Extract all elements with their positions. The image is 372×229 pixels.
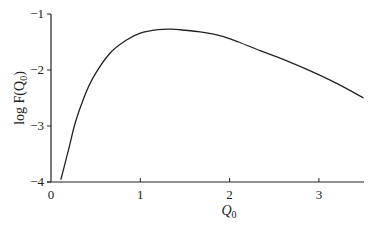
y-ticks: −1−2−3−4 [30,6,51,189]
x-tick-label: 1 [137,187,144,202]
x-tick-label: 2 [226,187,233,202]
y-tick-label: −3 [30,118,44,133]
y-tick-label: −2 [30,62,44,77]
data-line [61,29,364,180]
y-tick-label: −4 [30,174,44,189]
y-axis-label: log F(Q0) [12,71,29,125]
chart: −1−2−3−4 0123 log F(Q0) Q0 [0,0,372,229]
x-axis-label: Q0 [221,203,236,220]
x-tick-label: 0 [48,187,55,202]
x-tick-label: 3 [316,187,323,202]
y-tick-label: −1 [30,6,44,21]
